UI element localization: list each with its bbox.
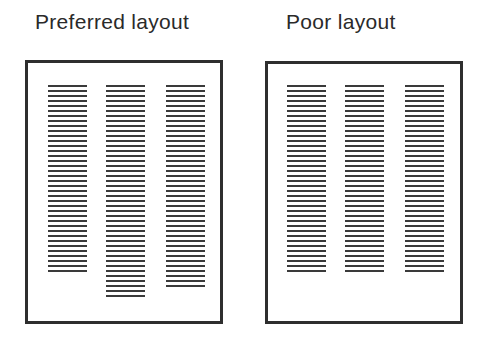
text-line [345, 115, 384, 117]
text-line [48, 120, 87, 122]
text-line [166, 260, 205, 262]
text-line [287, 240, 326, 242]
text-line [405, 220, 444, 222]
text-line [48, 180, 87, 182]
preferred-text-column-1 [48, 85, 87, 275]
text-line [287, 255, 326, 257]
text-line [48, 270, 87, 272]
text-line [345, 180, 384, 182]
text-line [106, 90, 145, 92]
text-line [106, 225, 145, 227]
poor-layout-title: Poor layout [286, 10, 396, 34]
text-line [287, 245, 326, 247]
text-line [345, 270, 384, 272]
text-line [405, 225, 444, 227]
text-line [166, 135, 205, 137]
text-line [287, 250, 326, 252]
text-line [106, 135, 145, 137]
text-line [48, 265, 87, 267]
text-line [405, 85, 444, 87]
text-line [106, 285, 145, 287]
text-line [345, 255, 384, 257]
text-line [287, 185, 326, 187]
text-line [166, 100, 205, 102]
text-line [106, 130, 145, 132]
text-line [106, 100, 145, 102]
text-line [345, 230, 384, 232]
text-line [345, 105, 384, 107]
text-line [405, 125, 444, 127]
text-line [166, 265, 205, 267]
text-line [345, 160, 384, 162]
text-line [48, 170, 87, 172]
text-line [405, 115, 444, 117]
text-line [106, 245, 145, 247]
text-line [345, 190, 384, 192]
text-line [405, 180, 444, 182]
text-line [287, 150, 326, 152]
text-line [287, 115, 326, 117]
text-line [287, 130, 326, 132]
text-line [166, 245, 205, 247]
text-line [287, 270, 326, 272]
text-line [166, 130, 205, 132]
text-line [106, 150, 145, 152]
text-line [106, 290, 145, 292]
text-line [106, 260, 145, 262]
text-line [287, 195, 326, 197]
text-line [345, 130, 384, 132]
text-line [166, 280, 205, 282]
text-line [345, 240, 384, 242]
text-line [106, 105, 145, 107]
text-line [287, 225, 326, 227]
text-line [405, 250, 444, 252]
text-line [48, 125, 87, 127]
text-line [405, 150, 444, 152]
text-line [106, 265, 145, 267]
text-line [106, 280, 145, 282]
text-line [405, 200, 444, 202]
text-line [48, 110, 87, 112]
text-line [166, 90, 205, 92]
text-line [345, 205, 384, 207]
text-line [345, 100, 384, 102]
text-line [166, 85, 205, 87]
text-line [405, 255, 444, 257]
text-line [48, 140, 87, 142]
text-line [48, 130, 87, 132]
text-line [166, 155, 205, 157]
text-line [166, 180, 205, 182]
poor-text-column-3 [405, 85, 444, 275]
text-line [345, 185, 384, 187]
text-line [48, 190, 87, 192]
text-line [166, 165, 205, 167]
text-line [405, 240, 444, 242]
text-line [345, 155, 384, 157]
text-line [287, 160, 326, 162]
text-line [166, 140, 205, 142]
text-line [345, 150, 384, 152]
text-line [106, 200, 145, 202]
text-line [166, 110, 205, 112]
text-line [345, 95, 384, 97]
text-line [287, 85, 326, 87]
text-line [106, 215, 145, 217]
text-line [166, 220, 205, 222]
text-line [345, 175, 384, 177]
text-line [48, 240, 87, 242]
text-line [405, 260, 444, 262]
text-line [287, 235, 326, 237]
text-line [287, 120, 326, 122]
text-line [405, 235, 444, 237]
text-line [166, 190, 205, 192]
text-line [48, 165, 87, 167]
text-line [106, 235, 145, 237]
text-line [405, 105, 444, 107]
text-line [287, 210, 326, 212]
text-line [405, 120, 444, 122]
text-line [405, 190, 444, 192]
text-line [106, 85, 145, 87]
text-line [48, 250, 87, 252]
text-line [405, 215, 444, 217]
text-line [106, 180, 145, 182]
